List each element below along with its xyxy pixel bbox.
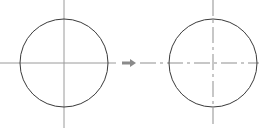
diagram-canvas bbox=[0, 0, 259, 128]
circle-transformation-diagram bbox=[0, 0, 259, 128]
